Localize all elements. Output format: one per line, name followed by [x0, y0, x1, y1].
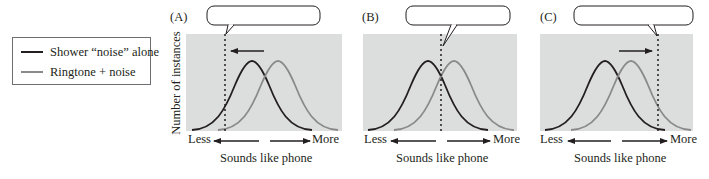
callout-bubble-c [574, 6, 693, 25]
panel-a-plot [186, 6, 342, 141]
panel-c-plot [540, 6, 693, 141]
diagram-graphics [0, 0, 709, 179]
callout-bubble-b [406, 6, 510, 25]
callout-bubble-a [207, 6, 320, 25]
panel-b-plot [363, 6, 517, 141]
